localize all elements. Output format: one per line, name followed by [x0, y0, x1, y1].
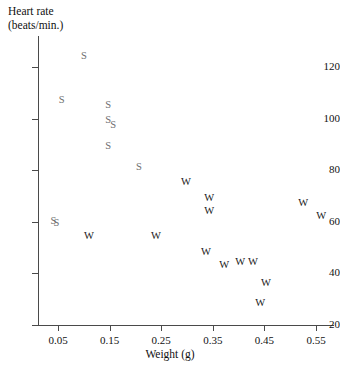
data-point-s: S — [101, 141, 115, 152]
x-tick-mark — [110, 325, 111, 331]
data-point-w: W — [314, 211, 328, 222]
x-tick-mark — [213, 325, 214, 331]
y-tick-label: 100 — [312, 112, 340, 124]
data-point-w: W — [253, 298, 267, 309]
y-tick-label: 80 — [312, 163, 340, 175]
x-axis-line — [38, 325, 334, 326]
data-point-w: W — [217, 260, 231, 271]
y-tick-mark — [32, 222, 39, 223]
data-point-w: W — [259, 278, 273, 289]
scatter-plot: Heart rate(beats/min.) 20406080100120 0.… — [0, 0, 340, 371]
y-tick-label: 40 — [312, 266, 340, 278]
x-tick-mark — [161, 325, 162, 331]
data-point-s: S — [77, 51, 91, 62]
x-tick-label: 0.15 — [90, 334, 130, 346]
data-point-w: W — [202, 193, 216, 204]
data-point-s: S — [101, 100, 115, 111]
x-tick-label: 0.45 — [244, 334, 284, 346]
y-axis-title-line2: (beats/min.) — [8, 19, 63, 31]
y-axis-line — [38, 36, 39, 326]
y-tick-mark — [32, 67, 39, 68]
data-point-s: S — [106, 120, 120, 131]
data-point-w: W — [179, 177, 193, 188]
data-point-w: W — [199, 247, 213, 258]
x-axis-title: Weight (g) — [0, 348, 340, 360]
data-point-w: W — [82, 231, 96, 242]
data-point-w: W — [202, 206, 216, 217]
y-tick-mark — [32, 273, 39, 274]
x-tick-label: 0.25 — [141, 334, 181, 346]
x-tick-label: 0.05 — [38, 334, 78, 346]
y-tick-mark — [32, 119, 39, 120]
y-axis-title: Heart rate(beats/min.) — [8, 4, 63, 32]
x-tick-label: 0.55 — [296, 334, 336, 346]
y-tick-mark — [32, 170, 39, 171]
data-point-s: S — [49, 218, 63, 229]
y-axis-title-line1: Heart rate — [8, 5, 54, 17]
x-tick-mark — [316, 325, 317, 331]
x-tick-mark — [58, 325, 59, 331]
data-point-w: W — [246, 257, 260, 268]
data-point-w: W — [296, 198, 310, 209]
y-tick-label: 120 — [312, 60, 340, 72]
data-point-s: S — [132, 162, 146, 173]
data-point-w: W — [233, 257, 247, 268]
data-point-w: W — [149, 231, 163, 242]
x-tick-label: 0.35 — [193, 334, 233, 346]
x-tick-mark — [264, 325, 265, 331]
y-tick-mark — [32, 325, 39, 326]
data-point-s: S — [55, 95, 69, 106]
